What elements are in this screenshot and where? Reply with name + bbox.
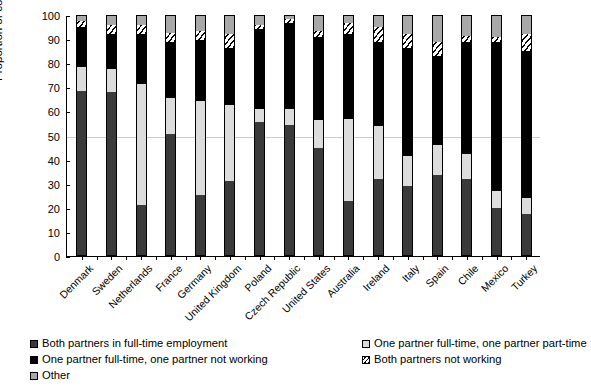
bar-ireland[interactable] — [373, 16, 384, 256]
x-tick-mark — [467, 256, 468, 260]
bar-segment — [313, 37, 324, 120]
bar-united-states[interactable] — [313, 16, 324, 256]
bar-segment — [136, 25, 147, 35]
x-tick-mark — [437, 256, 438, 260]
bar-czech-republic[interactable] — [284, 16, 295, 256]
bar-sweden[interactable] — [106, 16, 117, 256]
bar-segment — [521, 15, 532, 34]
bar-segment — [195, 15, 206, 31]
legend-swatch-icon — [30, 356, 38, 364]
bar-segment — [165, 33, 176, 41]
bar-segment — [76, 21, 87, 27]
y-tick-label: 100 — [42, 11, 60, 22]
bar-segment — [432, 42, 443, 56]
bar-italy[interactable] — [402, 16, 413, 256]
bar-segment — [224, 181, 235, 256]
bar-segment — [343, 201, 354, 256]
bar-segment — [343, 119, 354, 201]
y-tick-label: 40 — [48, 155, 60, 166]
bar-poland[interactable] — [254, 16, 265, 256]
bar-segment — [254, 122, 265, 256]
bar-segment — [432, 56, 443, 145]
x-category-label-mexico: Mexico — [478, 262, 510, 294]
x-tick-mark — [260, 256, 261, 260]
bar-segment — [402, 15, 413, 34]
x-tick-mark — [111, 256, 112, 260]
x-tick-mark-minor — [215, 257, 216, 260]
bar-segment — [254, 109, 265, 122]
bar-segment — [195, 195, 206, 256]
x-tick-mark-minor — [423, 257, 424, 260]
x-category-label-chile: Chile — [455, 262, 480, 287]
bar-spain[interactable] — [432, 16, 443, 256]
y-tick-label: 80 — [48, 59, 60, 70]
bar-segment — [373, 15, 384, 27]
bar-segment — [343, 34, 354, 118]
x-tick-mark-minor — [393, 257, 394, 260]
bar-denmark[interactable] — [76, 16, 87, 256]
bar-segment — [402, 156, 413, 186]
bar-segment — [313, 31, 324, 37]
bar-segment — [106, 25, 117, 35]
legend-item[interactable]: Both partners not working — [362, 352, 591, 367]
legend-label: Both partners in full-time employment — [42, 336, 227, 351]
bar-segment — [284, 125, 295, 256]
bar-segment — [373, 27, 384, 41]
bar-segment — [254, 25, 265, 30]
bar-segment — [461, 15, 472, 35]
bar-segment — [254, 15, 265, 25]
legend-label: One partner full-time, one partner not w… — [42, 352, 268, 367]
bar-segment — [402, 34, 413, 47]
bar-france[interactable] — [165, 16, 176, 256]
legend-label: One partner full-time, one partner part-… — [374, 336, 587, 351]
bar-segment — [254, 29, 265, 109]
bar-segment — [165, 134, 176, 256]
bar-united-kingdom[interactable] — [224, 16, 235, 256]
x-tick-mark — [526, 256, 527, 260]
x-tick-mark — [348, 256, 349, 260]
bar-germany[interactable] — [195, 16, 206, 256]
y-tick-label: 0 — [54, 252, 60, 263]
bar-segment — [76, 67, 87, 91]
legend-item[interactable]: One partner full-time, one partner part-… — [362, 336, 591, 351]
y-tick-label: 30 — [48, 179, 60, 190]
x-tick-mark — [378, 256, 379, 260]
bar-segment — [165, 15, 176, 33]
x-tick-mark-minor — [245, 257, 246, 260]
y-tick-label: 10 — [48, 227, 60, 238]
x-tick-mark-minor — [274, 257, 275, 260]
bar-segment — [521, 51, 532, 198]
bar-segment — [402, 186, 413, 256]
bar-segment — [313, 120, 324, 148]
y-tick-label: 20 — [48, 203, 60, 214]
bar-netherlands[interactable] — [136, 16, 147, 256]
bar-segment — [432, 145, 443, 175]
bar-mexico[interactable] — [491, 16, 502, 256]
bar-segment — [224, 15, 235, 34]
bar-segment — [106, 15, 117, 25]
bar-segment — [195, 40, 206, 100]
bar-segment — [402, 48, 413, 156]
legend-swatch-icon — [30, 340, 38, 348]
y-tick-label: 60 — [48, 107, 60, 118]
bar-australia[interactable] — [343, 16, 354, 256]
bar-segment — [284, 19, 295, 24]
bar-segment — [136, 205, 147, 256]
legend-item[interactable]: One partner full-time, one partner not w… — [30, 352, 330, 367]
x-tick-mark-minor — [97, 257, 98, 260]
bar-chile[interactable] — [461, 16, 472, 256]
x-tick-mark — [141, 256, 142, 260]
legend-item[interactable]: Other — [30, 368, 330, 383]
bar-segment — [461, 179, 472, 256]
bar-segment — [461, 154, 472, 179]
bar-segment — [432, 15, 443, 42]
bar-segment — [373, 179, 384, 256]
x-tick-mark — [408, 256, 409, 260]
y-axis-title: Proportion of couples (%) — [0, 0, 4, 136]
legend-item[interactable]: Both partners in full-time employment — [30, 336, 330, 351]
bar-segment — [491, 15, 502, 37]
bar-segment — [491, 208, 502, 256]
bar-turkey[interactable] — [521, 16, 532, 256]
bar-segment — [432, 175, 443, 256]
